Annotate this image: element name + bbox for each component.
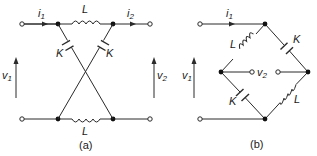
capacitor-plate: [236, 89, 244, 96]
label-L-bottom: L: [82, 125, 88, 137]
terminal: [198, 22, 202, 26]
label-v1-b: v1: [182, 69, 192, 83]
terminal: [250, 70, 254, 74]
voltage-arrow-icon: [14, 57, 19, 64]
label-K-lower-left: K: [229, 95, 237, 107]
label-i2: i2: [127, 7, 134, 21]
label-K-left: K: [56, 47, 64, 59]
capacitor-plate: [286, 47, 293, 54]
terminal: [148, 117, 152, 121]
panel-a: i1 i2 L L K K v1 v2 (a): [2, 3, 168, 151]
label-K-upper-right: K: [293, 33, 301, 45]
terminal: [276, 70, 280, 74]
capacitor-plate: [281, 43, 288, 50]
current-arrow-icon: [229, 22, 235, 27]
current-arrow-icon: [130, 22, 136, 27]
terminal: [20, 117, 24, 121]
inductor-bottom: [72, 119, 100, 122]
label-v2: v2: [157, 69, 168, 83]
label-L-top: L: [82, 3, 88, 15]
label-v1: v1: [2, 69, 12, 83]
circuit-diagrams: i1 i2 L L K K v1 v2 (a): [0, 0, 317, 156]
lattice-network-figure: i1 i2 L L K K v1 v2 (a): [0, 0, 317, 156]
terminal: [198, 117, 202, 121]
terminal: [20, 22, 24, 26]
terminal: [148, 22, 152, 26]
voltage-arrow-icon: [152, 57, 157, 64]
capacitor-plate: [62, 40, 70, 45]
capacitor-plate: [101, 40, 109, 45]
label-i1-b: i1: [226, 7, 233, 21]
inductor-upper-left: [237, 32, 253, 49]
panel-b: i1 v1 v2 L K K L (b): [182, 7, 310, 150]
label-K-right: K: [106, 47, 114, 59]
label-v2-b: v2: [257, 66, 268, 80]
label-i1: i1: [38, 7, 45, 21]
caption-b: (b): [250, 138, 263, 150]
label-L-upper-left: L: [230, 38, 236, 50]
label-L-lower-right: L: [294, 93, 300, 105]
current-arrow-icon: [42, 22, 48, 27]
inductor-top: [72, 21, 100, 24]
voltage-arrow-icon: [192, 57, 197, 64]
caption-a: (a): [79, 139, 92, 151]
